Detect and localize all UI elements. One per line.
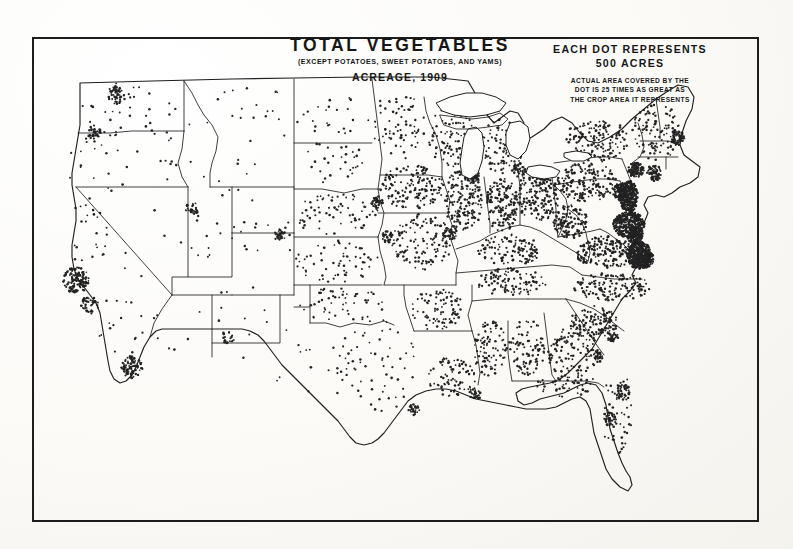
page-title: TOTAL VEGETABLES [250, 36, 550, 54]
legend-heading-line-2: 500 ACRES [528, 57, 732, 71]
map-page: TOTAL VEGETABLES (EXCEPT POTATOES, SWEET… [0, 0, 793, 549]
legend-heading-line-1: EACH DOT REPRESENTS [528, 43, 732, 57]
map-title-block: TOTAL VEGETABLES (EXCEPT POTATOES, SWEET… [250, 36, 550, 83]
acreage-year-label: ACREAGE, 1909 [250, 71, 550, 83]
legend-note-line-3: THE CROP AREA IT REPRESENTS [528, 95, 732, 104]
legend-note-line-2: DOT IS 25 TIMES AS GREAT AS [528, 85, 732, 94]
map-legend: EACH DOT REPRESENTS 500 ACRES ACTUAL ARE… [528, 43, 732, 104]
legend-note-line-1: ACTUAL AREA COVERED BY THE [528, 76, 732, 85]
title-subtitle: (EXCEPT POTATOES, SWEET POTATOES, AND YA… [250, 58, 550, 66]
map-border-frame [32, 37, 759, 522]
